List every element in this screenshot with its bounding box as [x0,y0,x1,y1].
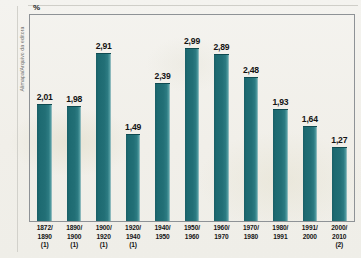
bar-value-label: 1,98 [66,94,82,104]
x-tick-label: 1960/1970 [207,224,236,241]
bar[interactable] [185,48,200,221]
x-tick-line: (1) [30,241,59,250]
x-tick-line: 1960/ [207,224,236,233]
x-tick-line: (1) [118,241,147,250]
x-tick-line: 2000 [295,233,324,242]
bar[interactable] [303,126,318,221]
x-tick-line: 2000/ [325,224,354,233]
bar-value-label: 2,89 [213,42,229,52]
bar[interactable] [96,53,111,221]
bar-group[interactable]: 2,48 [244,15,259,221]
bar-group[interactable]: 2,01 [37,15,52,221]
x-tick-line: 1960 [177,233,206,242]
x-tick-line: 1950/ [177,224,206,233]
x-tick-line: 1900/ [89,224,118,233]
bar-group[interactable]: 2,99 [185,15,200,221]
x-tick-label: 1980/1991 [266,224,295,241]
bars-container: 2,011,982,911,492,392,992,892,481,931,64… [30,15,354,221]
x-tick-label: 1940/1950 [148,224,177,241]
x-tick-line: 1970/ [236,224,265,233]
bar-value-label: 2,99 [184,36,200,46]
bar-group[interactable]: 1,27 [332,15,347,221]
bar[interactable] [244,77,259,221]
x-tick-label: 1950/1960 [177,224,206,241]
x-tick-line: (1) [59,241,88,250]
x-tick-line: 1991/ [295,224,324,233]
bar-value-label: 2,01 [37,92,53,102]
left-margin-rule [17,6,18,252]
x-tick-line: 1940 [118,233,147,242]
x-tick-label: 1991/2000 [295,224,324,241]
y-axis-unit-label: % [33,3,40,12]
bar-value-label: 1,49 [125,122,141,132]
x-tick-line: 2010 [325,233,354,242]
bar-group[interactable]: 1,49 [126,15,141,221]
bar-group[interactable]: 1,64 [303,15,318,221]
x-tick-line: 1970 [207,233,236,242]
bar-value-label: 1,64 [302,114,318,124]
x-tick-label: 1872/1890(1) [30,224,59,250]
bar-value-label: 2,39 [155,71,171,81]
bar-group[interactable]: 1,98 [67,15,82,221]
x-tick-line: 1872/ [30,224,59,233]
x-tick-line: 1920 [89,233,118,242]
bar[interactable] [126,134,141,221]
bar[interactable] [332,147,347,221]
x-axis-labels: 1872/1890(1)1890/1900(1)1900/1920(1)1920… [30,224,354,256]
bar-value-label: 2,91 [96,41,112,51]
x-tick-line: 1980/ [266,224,295,233]
bar[interactable] [273,109,288,221]
x-tick-label: 1900/1920(1) [89,224,118,250]
x-tick-line: 1890 [30,233,59,242]
x-tick-label: 1920/1940(1) [118,224,147,250]
x-tick-line: 1980 [236,233,265,242]
x-tick-line: 1920/ [118,224,147,233]
bar[interactable] [214,54,229,221]
x-tick-line: 1950 [148,233,177,242]
x-tick-label: 1890/1900(1) [59,224,88,250]
x-tick-label: 1970/1980 [236,224,265,241]
x-tick-line: 1940/ [148,224,177,233]
image-credit: Alimapa/Arquivo da editora [19,0,25,119]
bar-value-label: 1,27 [331,135,347,145]
x-tick-line: 1890/ [59,224,88,233]
bar-value-label: 2,48 [243,65,259,75]
x-tick-line: (2) [325,241,354,250]
bar[interactable] [37,104,52,221]
bar-group[interactable]: 2,89 [214,15,229,221]
bar-group[interactable]: 2,39 [155,15,170,221]
bar-value-label: 1,93 [272,97,288,107]
bar[interactable] [155,83,170,221]
bar-group[interactable]: 1,93 [273,15,288,221]
x-tick-label: 2000/2010(2) [325,224,354,250]
x-tick-line: 1900 [59,233,88,242]
bar[interactable] [67,106,82,221]
bar-group[interactable]: 2,91 [96,15,111,221]
x-tick-line: 1991 [266,233,295,242]
top-rule [28,5,358,6]
x-tick-line: (1) [89,241,118,250]
